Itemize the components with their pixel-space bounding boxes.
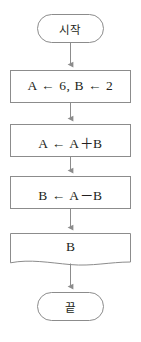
end-terminal[interactable] [37,292,104,321]
process-a-assign[interactable] [10,124,131,157]
process-init[interactable] [10,70,131,103]
start-terminal[interactable] [37,14,104,43]
flowchart-diagram [0,0,141,342]
output-document[interactable] [10,233,131,267]
process-b-assign[interactable] [10,176,131,209]
